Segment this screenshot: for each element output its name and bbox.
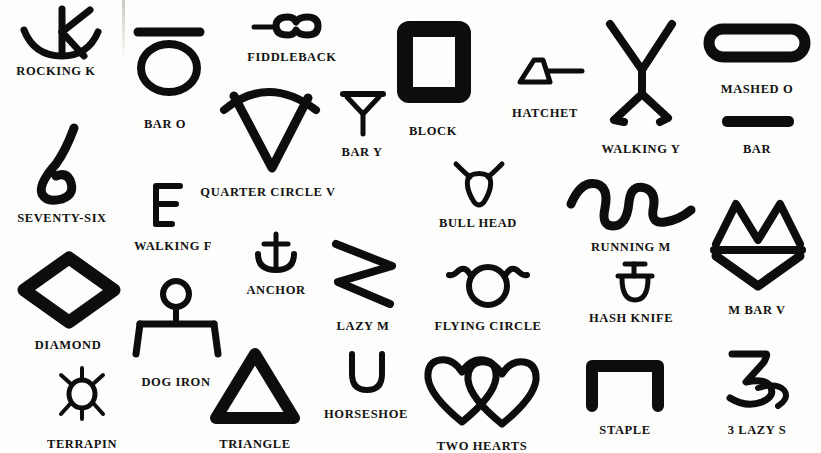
caption-dog-iron: DOG IRON bbox=[141, 375, 210, 390]
two-hearts-brand-icon bbox=[422, 352, 544, 430]
paper-fold-artifact bbox=[122, 0, 125, 60]
caption-m-bar-v: M BAR V bbox=[728, 303, 785, 318]
hatchet-brand-icon bbox=[512, 54, 586, 94]
caption-triangle: TRIANGLE bbox=[219, 437, 290, 452]
caption-bar-o: BAR O bbox=[144, 117, 186, 132]
terrapin-brand-icon bbox=[52, 362, 112, 424]
bar-brand-icon bbox=[718, 112, 798, 132]
caption-flying-circle: FLYING CIRCLE bbox=[434, 319, 541, 334]
mashed-o-brand-icon bbox=[701, 20, 813, 66]
caption-quarter-circle-v: QUARTER CIRCLE V bbox=[200, 185, 335, 200]
flying-circle-brand-icon bbox=[445, 258, 531, 310]
caption-block: BLOCK bbox=[409, 124, 457, 139]
caption-3-lazy-s: 3 LAZY S bbox=[728, 423, 787, 438]
quarter-circle-v-brand-icon bbox=[218, 80, 324, 176]
walking-y-brand-icon bbox=[602, 18, 682, 130]
caption-anchor: ANCHOR bbox=[246, 283, 305, 298]
running-m-brand-icon bbox=[565, 176, 697, 234]
seventy-six-brand-icon bbox=[22, 124, 92, 206]
caption-lazy-m: LAZY M bbox=[337, 319, 390, 334]
caption-terrapin: TERRAPIN bbox=[47, 437, 117, 452]
caption-walking-y: WALKING Y bbox=[602, 142, 681, 157]
caption-horseshoe: HORSESHOE bbox=[324, 407, 408, 422]
horseshoe-brand-icon bbox=[344, 350, 390, 396]
triangle-brand-icon bbox=[208, 346, 302, 428]
caption-running-m: RUNNING M bbox=[591, 240, 671, 255]
caption-rocking-k: ROCKING K bbox=[16, 64, 95, 79]
caption-two-hearts: TWO HEARTS bbox=[437, 439, 528, 453]
m-bar-v-brand-icon bbox=[708, 196, 808, 292]
staple-brand-icon bbox=[582, 356, 668, 412]
walking-f-brand-icon bbox=[142, 180, 198, 232]
fiddleback-brand-icon bbox=[250, 10, 338, 44]
bar-y-brand-icon bbox=[337, 88, 389, 138]
brand-chart-sheet: ROCKING K BAR O FIDDLEBACK QUARTER CIRCL… bbox=[0, 0, 821, 453]
caption-hatchet: HATCHET bbox=[512, 106, 578, 121]
caption-fiddleback: FIDDLEBACK bbox=[247, 50, 336, 65]
rocking-k-brand-icon bbox=[18, 4, 110, 62]
caption-diamond: DIAMOND bbox=[35, 338, 102, 353]
three-lazy-s-brand-icon bbox=[718, 348, 796, 414]
hash-knife-brand-icon bbox=[612, 258, 656, 308]
caption-mashed-o: MASHED O bbox=[721, 82, 794, 97]
caption-staple: STAPLE bbox=[599, 423, 650, 438]
bull-head-brand-icon bbox=[450, 160, 508, 212]
caption-seventy-six: SEVENTY-SIX bbox=[17, 211, 107, 226]
caption-bar-y: BAR Y bbox=[341, 145, 382, 160]
caption-bar: BAR bbox=[743, 142, 771, 157]
anchor-brand-icon bbox=[248, 230, 304, 276]
caption-bull-head: BULL HEAD bbox=[439, 216, 517, 231]
bar-o-brand-icon bbox=[130, 24, 208, 96]
diamond-brand-icon bbox=[16, 250, 122, 330]
caption-walking-f: WALKING F bbox=[134, 239, 212, 254]
caption-hash-knife: HASH KNIFE bbox=[589, 311, 673, 326]
block-brand-icon bbox=[394, 18, 474, 108]
lazy-m-brand-icon bbox=[330, 238, 400, 310]
